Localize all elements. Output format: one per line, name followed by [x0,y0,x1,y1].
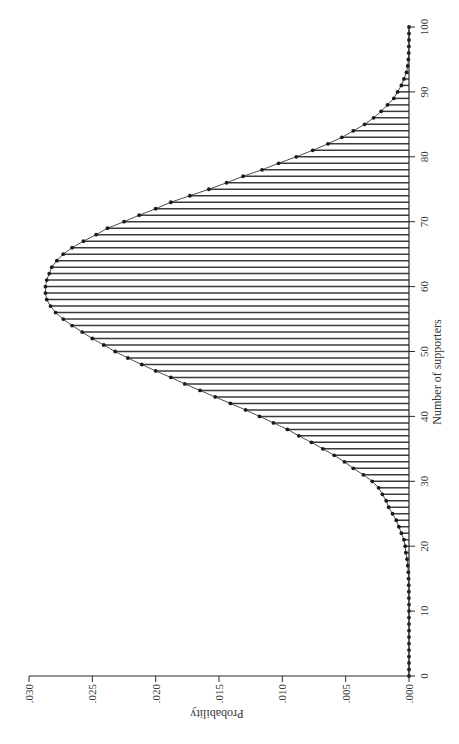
data-point [45,278,49,282]
data-point [384,499,388,503]
data-point [122,220,126,224]
data-point [61,252,65,256]
data-point [198,389,202,393]
data-point [183,382,187,386]
x-tick-label: 80 [418,151,430,163]
data-point [277,161,281,165]
y-tick-label: .030 [23,684,35,704]
data-point [260,168,264,172]
data-point [113,350,117,354]
y-tick-label: .025 [86,684,98,704]
x-tick-label: 0 [418,673,430,679]
data-point [397,525,401,529]
data-point [169,376,173,380]
data-point [54,311,58,315]
data-point [154,207,158,211]
data-point [387,505,391,509]
data-point [90,337,94,341]
data-point [70,324,74,328]
data-point [126,356,130,360]
data-point [326,142,330,146]
data-point [241,174,245,178]
y-tick-label: .020 [150,684,162,704]
data-point [381,492,385,496]
data-point [82,239,86,243]
data-point [213,395,217,399]
data-point [55,259,59,263]
data-point [396,90,400,94]
probability-distribution-chart: 0102030405060708090100 .000.005.010.015.… [0,0,459,744]
data-point [321,447,325,451]
data-point [258,415,262,419]
data-point [406,58,410,62]
data-point [340,135,344,139]
data-point [332,453,336,457]
data-point [272,421,276,425]
x-tick-label: 20 [418,540,430,552]
data-point [372,116,376,120]
data-point [45,298,49,302]
data-point [61,317,65,321]
data-point [370,479,374,483]
data-point [351,466,355,470]
x-ticks-layer: 0102030405060708090100 [409,18,430,679]
data-point [244,408,248,412]
data-point [402,538,406,542]
data-point [363,122,367,126]
data-point [386,103,390,107]
data-point [400,84,404,88]
data-point [404,551,408,555]
data-point [80,330,84,334]
data-point [47,272,51,276]
data-point [294,155,298,159]
data-point [377,486,381,490]
data-point [394,518,398,522]
data-point [225,181,229,185]
y-ticks-layer: .000.005.010.015.020.025.030 [23,676,415,703]
data-point [403,544,407,548]
data-point [286,427,290,431]
y-tick-label: .015 [213,684,225,704]
x-tick-label: 60 [418,281,430,293]
rotated-plot-group: 0102030405060708090100 .000.005.010.015.… [23,18,444,721]
y-axis-title: Probability [190,707,243,721]
stems-layer [45,72,409,552]
x-tick-label: 70 [418,216,430,228]
data-point [391,512,395,516]
data-point [402,77,406,81]
data-point [154,369,158,373]
x-tick-label: 50 [418,346,430,358]
data-point [392,96,396,100]
data-point [310,440,314,444]
x-tick-label: 30 [418,475,430,487]
data-point [102,343,106,347]
data-point [400,531,404,535]
data-point [137,213,141,217]
data-point [229,402,233,406]
data-point [343,460,347,464]
x-axis-title: Number of supporters [430,319,444,425]
data-point [351,129,355,133]
data-point [44,285,48,289]
data-point [379,109,383,113]
data-point [405,71,409,75]
x-tick-label: 40 [418,410,430,422]
y-tick-label: .000 [403,684,415,704]
data-point [362,473,366,477]
data-point [169,200,173,204]
x-tick-label: 10 [418,605,430,617]
y-tick-label: .005 [340,684,352,704]
data-point [207,187,211,191]
data-point [94,233,98,237]
data-point [311,148,315,152]
data-point [406,570,410,574]
data-point [70,246,74,250]
x-tick-label: 90 [418,86,430,98]
data-point [140,363,144,367]
data-point [44,291,48,295]
data-point [188,194,192,198]
x-tick-label: 100 [418,18,430,35]
data-point [50,265,54,269]
data-point [297,434,301,438]
data-point [106,226,110,230]
